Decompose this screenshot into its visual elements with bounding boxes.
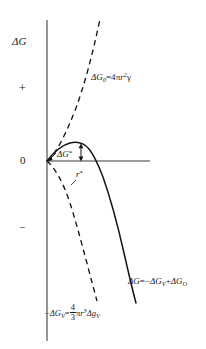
- barrier-measure-arrow: [79, 143, 84, 161]
- curve-surface-energy-dashed: [47, 19, 100, 161]
- volume-eq-delta-g: Δg: [87, 308, 96, 318]
- tick-label-minus: −: [19, 222, 25, 233]
- curve-volume-energy-dashed: [47, 161, 97, 301]
- critical-radius-leader-line: [71, 180, 76, 185]
- volume-energy-equation: −ΔGV=43πr3ΔgV: [44, 303, 100, 321]
- critical-radius-star: *: [80, 169, 84, 177]
- nucleation-free-energy-figure: ΔG + 0 − ΔG* r* ΔG0=4πr2γ ΔG=−ΔGV+ΔGO −Δ…: [0, 0, 206, 349]
- total-eq-volume-term: ΔG: [150, 276, 162, 286]
- barrier-label-star: *: [69, 149, 73, 157]
- volume-eq-delta-g-sub: V: [96, 312, 100, 319]
- surface-eq-gamma: γ: [127, 72, 131, 82]
- y-axis-label: ΔG: [12, 36, 26, 47]
- total-eq-surface-sub: O: [183, 280, 188, 287]
- critical-radius-label: r*: [76, 170, 83, 179]
- tick-label-zero: 0: [20, 155, 26, 166]
- total-eq-lhs: ΔG: [128, 276, 140, 286]
- total-eq-operator: =−: [140, 276, 150, 286]
- tick-label-plus: +: [19, 82, 26, 94]
- total-energy-equation: ΔG=−ΔGV+ΔGO: [128, 277, 187, 287]
- surface-energy-equation: ΔG0=4πr2γ: [91, 72, 131, 83]
- surface-eq-operator: =4: [106, 72, 116, 82]
- plot-canvas: [0, 0, 206, 349]
- barrier-label-text: ΔG: [57, 149, 69, 159]
- volume-eq-lhs: −ΔG: [44, 308, 61, 318]
- surface-eq-lhs: ΔG: [91, 72, 103, 82]
- total-eq-surface-term: ΔG: [171, 276, 183, 286]
- barrier-label: ΔG*: [57, 150, 72, 159]
